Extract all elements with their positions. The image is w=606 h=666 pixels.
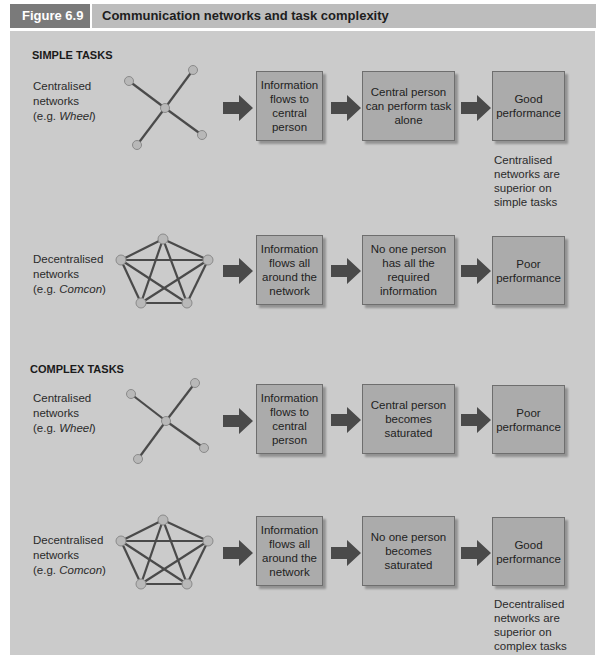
arrow-right-icon [223,408,253,434]
step-box: Information flows all around the network [256,516,323,586]
outcome-box: Poor performance [492,236,565,305]
step-box: Information flows all around the network [256,235,323,305]
comcon-network-icon [112,513,216,593]
wheel-network-icon [120,374,220,474]
figure-label: Figure 6.9 [10,4,90,28]
figure-title: Communication networks and task complexi… [92,4,596,28]
arrow-right-icon [461,407,491,433]
arrow-right-icon [223,95,253,121]
network-label-centralised: Centralised networks (e.g. Wheel) [33,391,96,436]
step-box: Information flows to central person [256,384,323,454]
comcon-network-icon [112,232,216,312]
arrow-right-icon [223,540,253,566]
conclusion-note: Centralised networks are superior on sim… [494,153,574,209]
arrow-right-icon [331,540,361,566]
conclusion-note: Decentralised networks are superior on c… [494,597,579,653]
outcome-box: Good performance [492,517,565,586]
outcome-box: Good performance [492,71,565,141]
outcome-box: Poor performance [492,385,565,454]
network-label-decentralised: Decentralised networks (e.g. Comcon) [33,252,106,297]
arrow-right-icon [331,95,361,121]
network-label-decentralised: Decentralised networks (e.g. Comcon) [33,533,106,578]
arrow-right-icon [331,258,361,284]
section-title-simple-tasks: SIMPLE TASKS [32,49,112,61]
wheel-network-icon [120,60,220,160]
arrow-right-icon [461,540,491,566]
arrow-right-icon [331,407,361,433]
figure-header: Figure 6.9 Communication networks and ta… [10,4,596,28]
step-box: No one person has all the required infor… [362,235,455,305]
step-box: Information flows to central person [256,71,323,141]
network-label-centralised: Centralised networks (e.g. Wheel) [33,79,96,124]
step-box: Central person can perform task alone [362,71,455,141]
step-box: No one person becomes saturated [362,516,455,586]
step-box: Central person becomes saturated [362,384,455,454]
section-title-complex-tasks: COMPLEX TASKS [30,363,124,375]
arrow-right-icon [461,95,491,121]
arrow-right-icon [223,258,253,284]
arrow-right-icon [461,258,491,284]
